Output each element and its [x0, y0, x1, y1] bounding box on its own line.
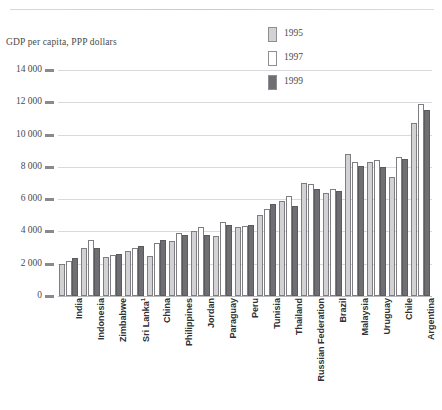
- bar-1997: [110, 255, 116, 296]
- legend-label-1995: 1995: [284, 29, 303, 39]
- x-axis-label: Malaysia: [360, 298, 370, 336]
- bar-1997: [286, 196, 292, 296]
- bar-group: [59, 70, 79, 296]
- bar-1999: [138, 246, 144, 296]
- y-tick-label-8000: 8 000: [0, 161, 42, 171]
- bar-1999: [94, 248, 100, 296]
- bar-1995: [323, 193, 329, 296]
- bar-group: [235, 70, 255, 296]
- legend-item-1997: 1997: [268, 46, 358, 70]
- bar-1995: [389, 177, 395, 296]
- x-axis-label: Thailand: [294, 298, 304, 335]
- bar-1997: [264, 209, 270, 296]
- bar-1999: [160, 240, 166, 297]
- bar-group: [257, 70, 277, 296]
- y-tick-dash-4000: [45, 230, 54, 233]
- bar-1999: [358, 166, 364, 296]
- legend-item-1995: 1995: [268, 22, 358, 46]
- bar-1999: [292, 206, 298, 296]
- legend-label-1997: 1997: [284, 53, 303, 63]
- x-axis-label: Uruguay: [382, 298, 392, 335]
- y-tick-label-14000: 14 000: [0, 64, 42, 74]
- bar-group: [103, 70, 123, 296]
- y-tick-dash-8000: [45, 166, 54, 169]
- bar-1997: [308, 184, 314, 296]
- x-axis-label: Tunisia: [272, 298, 282, 329]
- bar-1995: [169, 241, 175, 296]
- bar-1999: [402, 159, 408, 296]
- x-axis-label: Chile: [404, 298, 414, 320]
- bar-1999: [116, 254, 122, 296]
- chart-plot-area: [58, 70, 432, 296]
- bar-group: [345, 70, 365, 296]
- y-tick-label-6000: 6 000: [0, 193, 42, 203]
- bar-1995: [279, 201, 285, 296]
- bar-1999: [424, 110, 430, 296]
- x-axis-label: China: [162, 298, 172, 323]
- x-axis-label: Jordan: [206, 298, 216, 328]
- x-axis-label: Brazil: [338, 298, 348, 323]
- bar-1995: [81, 248, 87, 296]
- bar-1995: [301, 183, 307, 296]
- bar-1997: [198, 227, 204, 296]
- x-axis-label: Zimbabwe: [118, 298, 128, 342]
- bar-1997: [418, 104, 424, 296]
- bar-1999: [182, 235, 188, 296]
- x-axis-label: India: [74, 298, 84, 319]
- bar-1999: [314, 189, 320, 296]
- y-tick-label-10000: 10 000: [0, 129, 42, 139]
- x-axis-label: Indonesia: [96, 298, 106, 340]
- bar-1999: [204, 235, 210, 296]
- bar-1997: [176, 233, 182, 296]
- x-axis-label: Paraguay: [228, 298, 238, 339]
- bar-group: [213, 70, 233, 296]
- bar-group: [323, 70, 343, 296]
- x-axis-label: Philippines: [184, 298, 194, 346]
- bar-group: [147, 70, 167, 296]
- bar-1999: [248, 225, 254, 296]
- y-tick-dash-10000: [45, 134, 54, 137]
- y-tick-label-0: 0: [0, 290, 42, 300]
- bar-group: [191, 70, 211, 296]
- legend-swatch-1995: [268, 27, 277, 42]
- bar-1997: [220, 222, 226, 296]
- bar-group: [279, 70, 299, 296]
- y-tick-dash-12000: [45, 101, 54, 104]
- x-axis-label: Peru: [250, 298, 260, 318]
- bar-group: [169, 70, 189, 296]
- bar-1999: [270, 204, 276, 296]
- bar-1995: [257, 215, 263, 296]
- x-axis-label: Argentina: [426, 298, 436, 340]
- top-divider-rule: [10, 9, 434, 10]
- bar-1995: [345, 154, 351, 296]
- y-tick-label-2000: 2 000: [0, 258, 42, 268]
- bar-1995: [59, 264, 65, 296]
- bar-group: [81, 70, 101, 296]
- bar-1997: [242, 226, 248, 296]
- bar-1999: [72, 258, 78, 296]
- bar-1997: [396, 157, 402, 296]
- bar-1997: [66, 261, 72, 296]
- bar-1995: [235, 227, 241, 296]
- y-tick-dash-2000: [45, 263, 54, 266]
- y-tick-label-4000: 4 000: [0, 225, 42, 235]
- bar-group: [301, 70, 321, 296]
- y-tick-dash-6000: [45, 198, 54, 201]
- bar-1997: [88, 240, 94, 296]
- bar-group: [411, 70, 431, 296]
- bar-group: [367, 70, 387, 296]
- legend-swatch-1997: [268, 51, 277, 66]
- x-axis-labels: IndiaIndonesiaZimbabweSri Lanka1ChinaPhi…: [58, 298, 432, 406]
- bar-1995: [367, 162, 373, 296]
- bar-group: [389, 70, 409, 296]
- chart-bars: [58, 70, 432, 296]
- bar-1997: [154, 243, 160, 296]
- bar-1997: [374, 160, 380, 296]
- bar-1997: [352, 162, 358, 296]
- bar-1995: [213, 236, 219, 296]
- chart-axis-caption: GDP per capita, PPP dollars: [6, 37, 117, 47]
- y-tick-dash-14000: [45, 69, 54, 72]
- y-tick-dash-0: [45, 295, 54, 298]
- bar-1997: [132, 248, 138, 296]
- bar-group: [125, 70, 145, 296]
